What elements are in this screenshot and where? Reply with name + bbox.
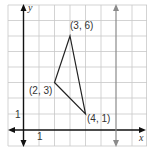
vertex-label-a: (3, 6): [70, 20, 93, 31]
x-axis-arrow-left-icon: [8, 127, 15, 133]
vertex-label-b: (2, 3): [29, 85, 52, 96]
x-tick-label: 1: [37, 131, 43, 142]
y-tick-label: 1: [15, 109, 21, 120]
y-axis-label: y: [28, 2, 32, 13]
vertex-label-c: (4, 1): [87, 113, 110, 124]
x-axis-label: x: [139, 132, 143, 143]
